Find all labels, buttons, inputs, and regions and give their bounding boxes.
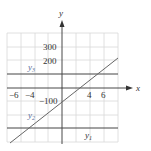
label-y1: y1 <box>84 130 92 141</box>
label-y2: y2 <box>27 110 35 121</box>
x-tick-6: 6 <box>101 90 106 100</box>
x-axis-label: x <box>135 83 140 93</box>
y-tick-300: 300 <box>43 42 57 52</box>
graph: y x 300 200 −100 −6 −4 4 6 y3 y2 y1 <box>0 0 151 151</box>
axes <box>7 26 128 144</box>
y-axis-arrow-icon <box>60 20 65 27</box>
line-y2 <box>10 58 118 143</box>
x-tick-minus6: −6 <box>9 90 19 100</box>
x-tick-minus4: −4 <box>25 90 35 100</box>
y-tick-minus100: −100 <box>39 96 58 106</box>
x-tick-4: 4 <box>87 90 92 100</box>
label-y3: y3 <box>27 62 35 73</box>
y-axis-label: y <box>58 8 63 18</box>
grid <box>7 33 118 142</box>
x-axis-arrow-icon <box>126 86 133 91</box>
y-tick-200: 200 <box>43 56 57 66</box>
